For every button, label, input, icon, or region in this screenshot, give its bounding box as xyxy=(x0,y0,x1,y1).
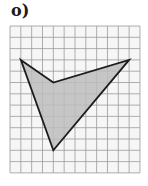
grid-diagram xyxy=(0,0,148,186)
